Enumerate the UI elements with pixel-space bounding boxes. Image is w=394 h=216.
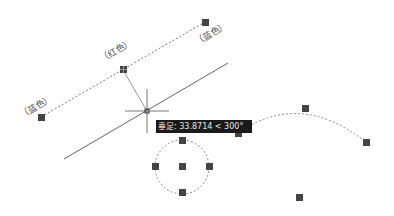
- grip-circle-center[interactable]: [179, 163, 186, 170]
- arc-object[interactable]: [238, 114, 366, 142]
- label-blue-top-right: （蓝色）: [193, 19, 230, 47]
- grip-circle-top[interactable]: [179, 137, 186, 144]
- drawing-canvas[interactable]: （蓝色） （红色） （蓝色） 垂足: 33.8714 < 300°: [0, 0, 394, 216]
- grip-endpoint-top-right[interactable]: [202, 19, 209, 26]
- grip-arc-mid[interactable]: [302, 105, 309, 112]
- grip-endpoint-left[interactable]: [38, 114, 45, 121]
- dynamic-input-tooltip: 垂足: 33.8714 < 300°: [156, 120, 252, 133]
- grip-arc-end[interactable]: [363, 139, 370, 146]
- perpendicular-rubber-band: [123, 70, 147, 111]
- grip-circle-bottom[interactable]: [179, 189, 186, 196]
- label-red-middle: （红色）: [98, 36, 135, 64]
- grip-arc-center[interactable]: [296, 194, 303, 201]
- grip-circle-right[interactable]: [206, 163, 213, 170]
- drawing-svg[interactable]: （蓝色） （红色） （蓝色）: [0, 0, 394, 216]
- label-blue-left: （蓝色）: [18, 92, 55, 120]
- grip-circle-left[interactable]: [152, 163, 159, 170]
